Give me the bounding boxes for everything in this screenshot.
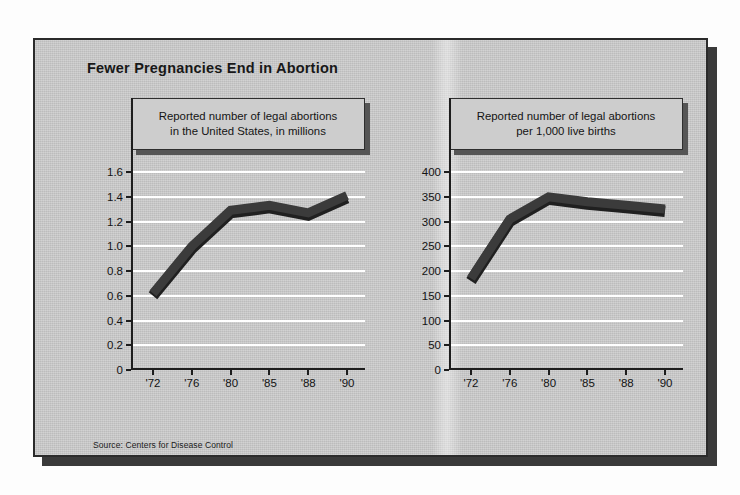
chart-panel-millions: Reported number of legal abortions in th…	[85, 98, 365, 438]
x-axis-tick	[191, 370, 193, 375]
caption-text-left: Reported number of legal abortions in th…	[153, 109, 344, 138]
x-axis-tick	[230, 370, 232, 375]
y-axis-label: 400	[422, 166, 441, 178]
infographic-card: Fewer Pregnancies End in Abortion Report…	[33, 38, 708, 457]
y-axis-label: 1.2	[107, 216, 123, 228]
y-axis-label: 50	[428, 339, 441, 351]
x-axis-tick	[625, 370, 627, 375]
y-axis-label: 350	[422, 191, 441, 203]
x-axis-label: '85	[580, 377, 595, 389]
x-axis-label: '90	[658, 377, 673, 389]
y-axis-label: 250	[422, 240, 441, 252]
y-axis-label: 0.8	[107, 265, 123, 277]
y-axis-label: 1.6	[107, 166, 123, 178]
x-axis-label: '88	[301, 377, 316, 389]
x-axis-label: '85	[262, 377, 277, 389]
caption-plaque-box: Reported number of legal abortions in th…	[131, 98, 365, 150]
screenshot-root: Fewer Pregnancies End in Abortion Report…	[0, 0, 740, 495]
x-axis-label: '72	[146, 377, 161, 389]
source-note: Source: Centers for Disease Control	[93, 440, 233, 450]
caption-line-2: per 1,000 live births	[516, 125, 615, 137]
data-series-line	[131, 172, 365, 370]
x-axis-tick	[152, 370, 154, 375]
x-axis-tick	[509, 370, 511, 375]
caption-text-right: Reported number of legal abortions per 1…	[471, 109, 662, 138]
y-axis-label: 1.4	[107, 191, 123, 203]
x-axis-tick	[586, 370, 588, 375]
x-axis-tick	[548, 370, 550, 375]
x-axis-label: '76	[502, 377, 517, 389]
caption-plaque-box: Reported number of legal abortions per 1…	[449, 98, 683, 150]
series-line	[471, 197, 665, 279]
y-axis-label: 0.4	[107, 315, 123, 327]
caption-line-2: in the United States, in millions	[170, 125, 326, 137]
x-axis-tick	[307, 370, 309, 375]
y-axis-label: 0	[117, 364, 123, 376]
x-axis-tick	[664, 370, 666, 375]
y-axis-label: 150	[422, 290, 441, 302]
x-axis-tick	[268, 370, 270, 375]
data-series-line	[449, 172, 683, 370]
series-line	[153, 196, 347, 294]
y-axis-label: 200	[422, 265, 441, 277]
y-axis-label: 0.6	[107, 290, 123, 302]
y-axis-label: 300	[422, 216, 441, 228]
plot-area-millions: 1.61.41.21.00.80.60.40.20'72'76'80'85'88…	[131, 172, 365, 370]
x-axis-tick	[346, 370, 348, 375]
plot-area-per-1000: 400350300250200150100500'72'76'80'85'88'…	[449, 172, 683, 370]
x-axis-label: '80	[541, 377, 556, 389]
x-axis-label: '90	[340, 377, 355, 389]
y-axis-label: 1.0	[107, 240, 123, 252]
caption-line-1: Reported number of legal abortions	[159, 110, 338, 122]
caption-line-1: Reported number of legal abortions	[477, 110, 656, 122]
x-axis-tick	[470, 370, 472, 375]
x-axis-label: '76	[184, 377, 199, 389]
x-axis-label: '88	[619, 377, 634, 389]
y-axis-label: 100	[422, 315, 441, 327]
y-axis-label: 0.2	[107, 339, 123, 351]
x-axis-label: '80	[223, 377, 238, 389]
page-title: Fewer Pregnancies End in Abortion	[87, 60, 338, 76]
chart-panel-per-1000: Reported number of legal abortions per 1…	[403, 98, 685, 438]
y-axis-label: 0	[435, 364, 441, 376]
x-axis-label: '72	[464, 377, 479, 389]
